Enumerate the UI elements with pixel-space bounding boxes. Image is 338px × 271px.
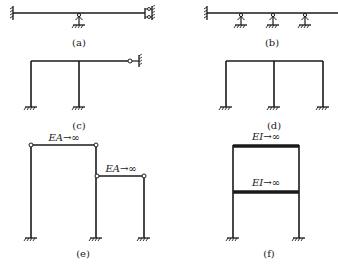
annotation-ea-top: EA→∞ (47, 132, 79, 143)
hinge-icon (95, 174, 99, 178)
hinge-icon (142, 174, 146, 178)
annotation-ei-lower: EI→∞ (251, 177, 280, 188)
pin-support-icon (266, 13, 279, 28)
panel-b: (b) (204, 6, 338, 48)
fixed-wall-icon (10, 6, 13, 20)
panel-c: (c) (24, 54, 142, 131)
hinge-link-support-icon (128, 54, 142, 67)
panel-a: (a) (10, 5, 155, 48)
guided-support-icon (145, 5, 155, 20)
fixed-support-icon (226, 238, 239, 241)
pin-support-icon (234, 13, 247, 28)
panel-d: (d) (219, 61, 329, 131)
hinge-icon (29, 143, 33, 147)
panel-label-a: (a) (72, 37, 86, 48)
fixed-support-icon (137, 238, 150, 241)
panel-label-d: (d) (267, 120, 281, 131)
annotation-ea-lower: EA→∞ (104, 163, 136, 174)
pin-support-icon (72, 13, 85, 28)
fixed-support-icon (72, 107, 85, 110)
hinge-icon (94, 143, 98, 147)
panel-label-f: (f) (263, 248, 275, 259)
panel-f: EI→∞ EI→∞ (f) (226, 131, 305, 259)
panel-label-c: (c) (72, 120, 86, 131)
fixed-support-icon (219, 107, 232, 110)
pin-support-icon (298, 13, 311, 28)
fixed-wall-icon (204, 6, 207, 20)
panel-label-e: (e) (76, 248, 90, 259)
panel-e: EA→∞ EA→∞ (e) (24, 132, 150, 259)
fixed-support-icon (24, 107, 37, 110)
fixed-support-icon (292, 238, 305, 241)
structural-diagram: (a) (b) (c) (d (0, 0, 338, 271)
annotation-ei-top: EI→∞ (251, 131, 280, 142)
fixed-support-icon (316, 107, 329, 110)
fixed-support-icon (267, 107, 280, 110)
panel-label-b: (b) (265, 37, 279, 48)
fixed-support-icon (24, 238, 37, 241)
fixed-support-icon (89, 238, 102, 241)
